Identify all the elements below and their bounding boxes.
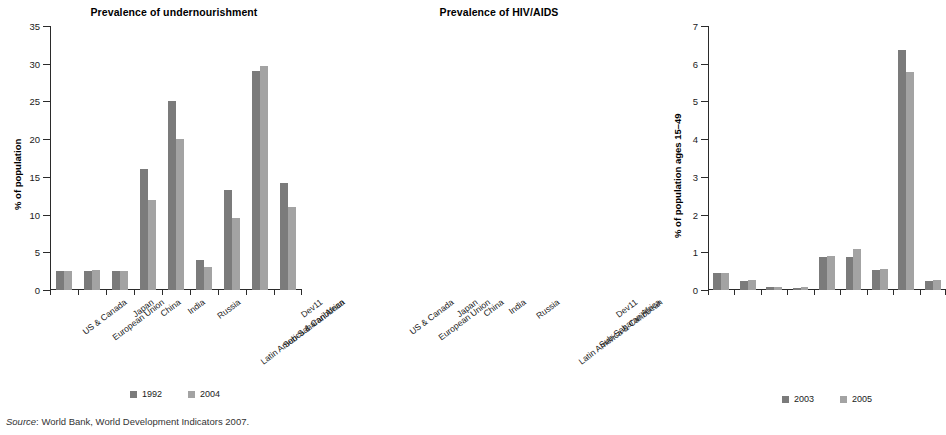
bar-group	[84, 26, 101, 290]
bar	[120, 271, 128, 290]
legend-label: 2005	[852, 394, 872, 404]
legend-item: 2003	[782, 394, 814, 404]
source-note: Source: World Bank, World Development In…	[6, 416, 249, 427]
y-axis-tick-label: 20	[29, 134, 40, 145]
legend-item: 2005	[840, 394, 872, 404]
y-axis-tick-label: 25	[29, 96, 40, 107]
y-axis-tick	[43, 26, 50, 27]
bar-group	[713, 26, 729, 290]
y-axis-tick	[43, 177, 50, 178]
source-label: Source	[6, 416, 36, 427]
x-axis-tick	[218, 290, 219, 295]
legend-label: 2003	[794, 394, 814, 404]
bar	[64, 271, 72, 290]
legend-item: 2004	[188, 389, 220, 399]
bar	[196, 260, 204, 290]
bar	[713, 273, 721, 290]
bar	[204, 267, 212, 290]
legend-undernourishment: 19922004	[130, 389, 220, 399]
bar	[740, 281, 748, 290]
bar-group	[224, 26, 241, 290]
x-axis-tick	[246, 290, 247, 295]
x-axis-tick	[920, 290, 921, 295]
x-axis-tick	[50, 290, 51, 295]
x-axis-tick	[162, 290, 163, 295]
bar	[280, 183, 288, 290]
bar-group	[252, 26, 269, 290]
bar	[774, 287, 782, 290]
bar-group	[280, 26, 297, 290]
plot-area-undernourishment: 05101520253035	[50, 26, 302, 290]
bar	[827, 256, 835, 290]
bar-group	[819, 26, 835, 290]
x-axis-tick	[134, 290, 135, 295]
y-axis-tick-label: 4	[693, 134, 698, 145]
y-axis-tick-label: 30	[29, 58, 40, 69]
x-axis-tick	[840, 290, 841, 295]
bar-group	[168, 26, 185, 290]
y-axis-tick-label: 35	[29, 21, 40, 32]
y-axis-tick	[701, 139, 708, 140]
legend-swatch	[840, 396, 847, 403]
y-axis-tick-label: 6	[693, 58, 698, 69]
x-axis-tick	[787, 290, 788, 295]
bar	[819, 257, 827, 290]
y-axis-tick-label: 2	[693, 209, 698, 220]
legend-swatch	[188, 391, 195, 398]
y-axis-tick-label: 1	[693, 247, 698, 258]
y-axis-tick	[701, 101, 708, 102]
bar	[56, 271, 64, 290]
y-axis-tick-label: 5	[35, 247, 40, 258]
chart-title-hiv-aids: Prevalence of HIV/AIDS	[330, 6, 646, 18]
bar	[260, 66, 268, 290]
x-axis-tick	[190, 290, 191, 295]
bar	[140, 169, 148, 290]
bar	[176, 139, 184, 290]
bar-group	[766, 26, 782, 290]
bar-group	[140, 26, 157, 290]
y-axis-tick-label: 0	[693, 285, 698, 296]
bar	[846, 257, 854, 290]
y-axis-tick	[701, 26, 708, 27]
legend-hiv-aids: 20032005	[782, 394, 872, 404]
source-text: : World Bank, World Development Indicato…	[36, 416, 249, 427]
bar	[748, 280, 756, 290]
bar-group	[740, 26, 756, 290]
chart-title-undernourishment: Prevalence of undernourishment	[0, 6, 330, 18]
x-axis-tick	[708, 290, 709, 295]
y-axis-tick	[43, 290, 50, 291]
bar	[232, 218, 240, 290]
y-axis-tick-label: 10	[29, 209, 40, 220]
bar-group	[898, 26, 914, 290]
bar-group	[196, 26, 213, 290]
y-axis-tick	[701, 215, 708, 216]
bar-group	[872, 26, 888, 290]
y-axis-tick-label: 0	[35, 285, 40, 296]
legend-item: 1992	[130, 389, 162, 399]
x-axis-tick	[893, 290, 894, 295]
x-axis-tick	[78, 290, 79, 295]
y-axis-tick	[43, 101, 50, 102]
legend-swatch	[130, 391, 137, 398]
y-axis-label-undernourishment: % of population	[12, 139, 23, 210]
plot-area-hiv-aids: 01234567	[708, 26, 946, 290]
y-axis-tick	[43, 215, 50, 216]
bar-group	[793, 26, 809, 290]
y-axis-tick	[43, 252, 50, 253]
bar-group	[112, 26, 129, 290]
y-axis-tick	[701, 177, 708, 178]
x-axis-tick	[761, 290, 762, 295]
y-axis-label-hiv-aids: % of population ages 15–49	[672, 113, 683, 238]
bar	[793, 288, 801, 290]
y-axis-tick-label: 5	[693, 96, 698, 107]
bar-group	[56, 26, 73, 290]
x-axis-tick	[301, 290, 302, 295]
bar	[288, 207, 296, 290]
x-axis-tick	[274, 290, 275, 295]
bar	[148, 200, 156, 291]
bar	[252, 71, 260, 290]
bar	[880, 269, 888, 290]
bar	[898, 50, 906, 290]
x-axis-tick	[106, 290, 107, 295]
bar	[84, 271, 92, 290]
